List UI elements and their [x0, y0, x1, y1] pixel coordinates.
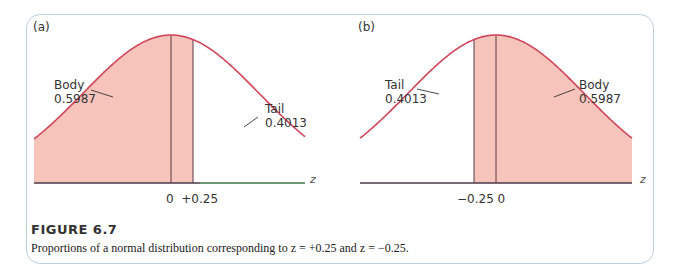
panel-a-tick-labels: 0 +0.25 — [166, 192, 218, 206]
panel-b-tail-value: 0.4013 — [385, 92, 427, 106]
panel-a-label: (a) — [33, 20, 50, 34]
panel-a-body-annotation: Body 0.5987 — [54, 78, 96, 106]
figure-caption: Proportions of a normal distribution cor… — [31, 241, 409, 256]
normal-curves-plot — [0, 0, 677, 279]
panel-b-body-value: 0.5987 — [579, 92, 621, 106]
figure-title: FIGURE 6.7 — [31, 222, 117, 237]
panel-b-tail-label: Tail — [385, 78, 427, 92]
panel-b-body-annotation: Body 0.5987 — [579, 78, 621, 106]
panel-a-tail-annotation: Tail 0.4013 — [265, 102, 307, 130]
panel-a-axis-label: z — [310, 173, 316, 186]
panel-b-body-label: Body — [579, 78, 621, 92]
panel-a-body-label: Body — [54, 78, 96, 92]
panel-b-tick-labels: −0.25 0 — [457, 192, 505, 206]
panel-a-tail-label: Tail — [265, 102, 307, 116]
callout-line — [244, 117, 258, 127]
panel-b-label: (b) — [358, 20, 375, 34]
panel-b-tail-annotation: Tail 0.4013 — [385, 78, 427, 106]
panel-b-chart — [360, 35, 632, 183]
shaded-area — [34, 35, 193, 183]
panel-a-body-value: 0.5987 — [54, 92, 96, 106]
shaded-area — [474, 35, 632, 183]
panel-b-axis-label: z — [640, 173, 646, 186]
panel-a-tail-value: 0.4013 — [265, 116, 307, 130]
